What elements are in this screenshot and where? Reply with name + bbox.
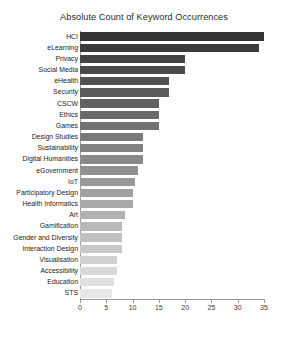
bar-row: Art xyxy=(0,210,288,221)
bar xyxy=(80,278,114,286)
category-label: Games xyxy=(0,122,78,129)
bar-row: Visualisation xyxy=(0,254,288,265)
bar xyxy=(80,133,143,141)
x-tick-label: 0 xyxy=(68,304,92,311)
bar xyxy=(80,200,133,208)
bar xyxy=(80,233,122,241)
bar-chart: Absolute Count of Keyword Occurrences HC… xyxy=(0,0,288,342)
x-tick-mark xyxy=(80,300,81,303)
bar-row: Sustainability xyxy=(0,143,288,154)
category-label: Digital Humanities xyxy=(0,156,78,163)
bar-row: Gender and Diversity xyxy=(0,232,288,243)
x-tick-label: 15 xyxy=(147,304,171,311)
category-label: Security xyxy=(0,89,78,96)
bar-row: Accessibility xyxy=(0,266,288,277)
bar xyxy=(80,178,135,186)
category-label: STS xyxy=(0,290,78,297)
bar xyxy=(80,122,159,130)
category-label: Participatory Design xyxy=(0,189,78,196)
bar xyxy=(80,32,264,40)
category-label: Social Media xyxy=(0,67,78,74)
category-label: Visualisation xyxy=(0,256,78,263)
category-label: Ethics xyxy=(0,111,78,118)
bar xyxy=(80,144,143,152)
category-label: HCI xyxy=(0,33,78,40)
bar xyxy=(80,267,117,275)
category-label: IoT xyxy=(0,178,78,185)
bar xyxy=(80,289,112,297)
bar xyxy=(80,256,117,264)
category-label: Design Studies xyxy=(0,134,78,141)
x-tick-mark xyxy=(211,300,212,303)
bar-rows-container: HCIeLearningPrivacySocial MediaeHealthSe… xyxy=(0,31,288,299)
category-label: Art xyxy=(0,212,78,219)
bar xyxy=(80,99,159,107)
bar-row: STS xyxy=(0,288,288,299)
x-tick-label: 25 xyxy=(199,304,223,311)
bar xyxy=(80,55,185,63)
bar xyxy=(80,155,143,163)
bar-row: eLearning xyxy=(0,42,288,53)
bar-row: Gamification xyxy=(0,221,288,232)
category-label: eLearning xyxy=(0,44,78,51)
bar-row: Social Media xyxy=(0,65,288,76)
bar-row: IoT xyxy=(0,176,288,187)
x-tick-label: 5 xyxy=(94,304,118,311)
category-label: Education xyxy=(0,279,78,286)
x-tick-mark xyxy=(185,300,186,303)
bar-row: Education xyxy=(0,277,288,288)
category-label: Health Informatics xyxy=(0,201,78,208)
bar xyxy=(80,166,138,174)
category-label: Gamification xyxy=(0,223,78,230)
x-tick-label: 35 xyxy=(252,304,276,311)
bar-row: eHealth xyxy=(0,76,288,87)
bar-row: Ethics xyxy=(0,109,288,120)
bar-row: Games xyxy=(0,120,288,131)
category-label: Accessibility xyxy=(0,268,78,275)
category-label: Sustainability xyxy=(0,145,78,152)
bar xyxy=(80,66,185,74)
bar xyxy=(80,222,122,230)
category-label: Interaction Design xyxy=(0,245,78,252)
bar-row: CSCW xyxy=(0,98,288,109)
bar-row: Privacy xyxy=(0,53,288,64)
x-tick-mark xyxy=(133,300,134,303)
bar-row: Health Informatics xyxy=(0,199,288,210)
category-label: Privacy xyxy=(0,55,78,62)
x-tick-label: 20 xyxy=(173,304,197,311)
category-label: eHealth xyxy=(0,78,78,85)
bar xyxy=(80,245,122,253)
x-tick-label: 10 xyxy=(121,304,145,311)
chart-title: Absolute Count of Keyword Occurrences xyxy=(0,12,288,22)
x-tick-mark xyxy=(238,300,239,303)
bar-row: HCI xyxy=(0,31,288,42)
bar xyxy=(80,44,259,52)
bar-row: eGovernment xyxy=(0,165,288,176)
bar-row: Digital Humanities xyxy=(0,154,288,165)
category-label: CSCW xyxy=(0,100,78,107)
x-tick-mark xyxy=(264,300,265,303)
bar xyxy=(80,111,159,119)
bar-row: Interaction Design xyxy=(0,243,288,254)
bar xyxy=(80,88,169,96)
category-label: Gender and Diversity xyxy=(0,234,78,241)
bar-row: Security xyxy=(0,87,288,98)
category-label: eGovernment xyxy=(0,167,78,174)
bar xyxy=(80,77,169,85)
x-tick-label: 30 xyxy=(226,304,250,311)
bar-row: Design Studies xyxy=(0,132,288,143)
bar-row: Participatory Design xyxy=(0,187,288,198)
x-tick-mark xyxy=(106,300,107,303)
bar xyxy=(80,211,125,219)
x-tick-mark xyxy=(159,300,160,303)
bar xyxy=(80,189,133,197)
